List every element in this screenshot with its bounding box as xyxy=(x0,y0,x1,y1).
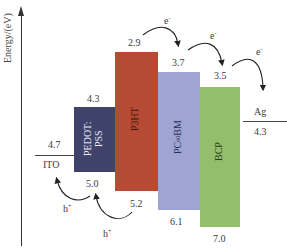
electron-label-2: e- xyxy=(210,30,216,41)
electron-arrow-2 xyxy=(188,43,222,63)
hole-arrow-1 xyxy=(57,180,90,200)
carrier-arrows xyxy=(0,0,287,248)
hole-label-2: h+ xyxy=(103,228,111,239)
electron-label-1: e- xyxy=(164,15,170,26)
electron-arrow-3 xyxy=(232,59,263,88)
hole-label-1: h+ xyxy=(63,203,71,214)
hole-arrow-2 xyxy=(96,196,132,219)
electron-label-3: e- xyxy=(256,46,262,57)
electron-arrow-1 xyxy=(143,27,178,44)
